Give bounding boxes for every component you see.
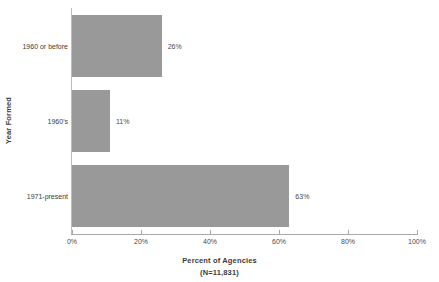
x-tick-label: 80%: [341, 238, 355, 245]
bar-3: [72, 165, 289, 227]
bar-value-label: 26%: [168, 42, 182, 49]
x-tick: [210, 230, 211, 235]
bar-1: [72, 15, 162, 77]
category-label: 1960 or before: [22, 42, 68, 49]
bar-row: 26%: [72, 15, 417, 77]
x-tick: [348, 230, 349, 235]
x-tick: [279, 230, 280, 235]
category-label: 1960's: [48, 118, 68, 125]
category-label: 1971-present: [27, 193, 68, 200]
x-axis-subtitle: (N=11,831): [0, 268, 439, 277]
x-tick-label: 40%: [203, 238, 217, 245]
x-tick: [417, 230, 418, 235]
bar-chart: Year Formed 26%11%63% 1960 or before1960…: [0, 0, 439, 282]
x-tick-label: 60%: [272, 238, 286, 245]
plot-area: 26%11%63%: [72, 8, 417, 234]
x-tick-label: 0%: [67, 238, 77, 245]
bar-row: 11%: [72, 90, 417, 152]
x-tick-label: 100%: [408, 238, 426, 245]
x-axis-line: [71, 234, 418, 235]
x-tick: [141, 230, 142, 235]
bar-value-label: 63%: [295, 193, 309, 200]
bar-row: 63%: [72, 165, 417, 227]
x-tick: [72, 230, 73, 235]
x-tick-label: 20%: [134, 238, 148, 245]
bar-2: [72, 90, 110, 152]
x-axis-title: Percent of Agencies: [0, 256, 439, 265]
y-axis-title-text: Year Formed: [5, 96, 14, 143]
bar-value-label: 11%: [116, 118, 130, 125]
y-axis-title: Year Formed: [0, 0, 18, 240]
